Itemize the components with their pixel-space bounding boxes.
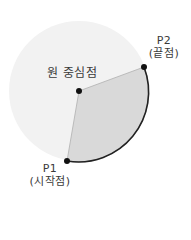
end-point-desc: (끝점)	[146, 47, 182, 60]
start-point-desc: (시작점)	[26, 175, 74, 188]
start-point-label: P1 (시작점)	[26, 162, 74, 188]
center-point-marker	[76, 88, 82, 94]
center-point-label-text: 원 중심점	[47, 67, 97, 80]
end-point-marker	[141, 64, 147, 70]
start-point-name: P1	[26, 162, 74, 175]
end-point-label: P2 (끝점)	[146, 34, 182, 60]
end-point-name: P2	[146, 34, 182, 47]
center-point-label: 원 중심점	[47, 67, 97, 80]
